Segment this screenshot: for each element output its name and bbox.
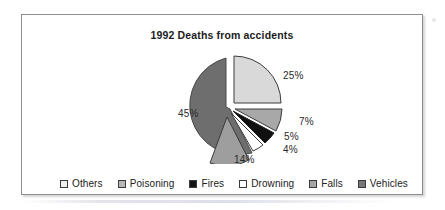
legend-swatch-fires-icon [189,180,197,188]
legend-swatch-others-icon [60,180,68,188]
legend-item-poisoning[interactable]: Poisoning [118,178,175,189]
legend-label-poisoning: Poisoning [130,178,175,189]
legend-item-vehicles[interactable]: Vehicles [358,178,408,189]
pie-label-fires: 5% [284,131,299,142]
legend-label-vehicles: Vehicles [370,178,408,189]
legend-item-others[interactable]: Others [60,178,103,189]
pie-slice-others[interactable] [234,56,281,103]
legend-swatch-vehicles-icon [358,180,366,188]
legend-label-fires: Fires [201,178,224,189]
chart-legend: Others Poisoning Fires Drowning Falls Ve… [50,178,440,189]
pie-label-others: 25% [283,70,304,81]
scan-artifact-bottom [24,200,394,203]
legend-item-drowning[interactable]: Drowning [239,178,294,189]
scan-artifact-right [432,18,436,22]
chart-title: 1992 Deaths from accidents [22,29,422,41]
chart-frame: 1992 Deaths from accidents [21,14,423,195]
legend-item-falls[interactable]: Falls [309,178,343,189]
pie-label-poisoning: 7% [299,116,314,127]
pie-label-falls: 14% [234,154,255,165]
pie-svg [142,49,332,164]
legend-label-drowning: Drowning [251,178,294,189]
legend-swatch-poisoning-icon [118,180,126,188]
legend-item-fires[interactable]: Fires [189,178,224,189]
legend-swatch-falls-icon [309,180,317,188]
legend-swatch-drowning-icon [239,180,247,188]
pie-label-drowning: 4% [283,144,298,155]
legend-label-falls: Falls [321,178,343,189]
legend-label-others: Others [72,178,103,189]
pie-chart [142,49,332,164]
pie-label-vehicles: 45% [178,108,199,119]
